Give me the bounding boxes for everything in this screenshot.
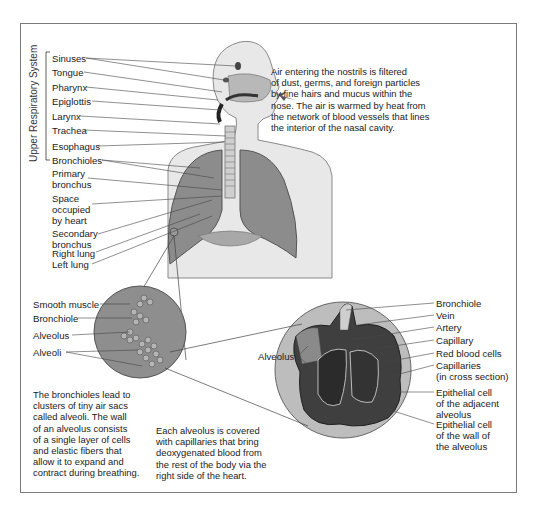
upper-respiratory-label: Upper Respiratory System: [28, 45, 39, 162]
label-alveoli: Alveoli: [33, 347, 61, 358]
label-epithelial-wall: Epithelial cell of the wall of the alveo…: [436, 419, 492, 452]
label-pharynx: Pharynx: [52, 82, 87, 93]
cluster-caption: The bronchioles lead to clusters of tiny…: [33, 389, 139, 479]
label-alveolus: Alveolus: [33, 330, 69, 341]
label-primary-bronchus: Primary bronchus: [52, 168, 91, 190]
label-artery: Artery: [436, 322, 462, 333]
label-epiglottis: Epiglottis: [52, 96, 91, 107]
label-bronchioles: Bronchioles: [52, 155, 102, 166]
label-epithelial-adjacent: Epithelial cell of the adjacent alveolus: [436, 387, 499, 420]
label-smooth-muscle: Smooth muscle: [33, 299, 99, 310]
label-tongue: Tongue: [52, 67, 83, 78]
label-esophagus: Esophagus: [52, 141, 100, 152]
label-capillary: Capillary: [436, 335, 473, 346]
label-heart-space: Space occupied by heart: [52, 193, 90, 226]
label-detail-bronchiole: Bronchiole: [436, 298, 481, 309]
alveolus-caption: Each alveolus is covered with capillarie…: [156, 425, 267, 481]
label-sinuses: Sinuses: [52, 53, 86, 64]
label-red-blood-cells: Red blood cells: [436, 348, 502, 359]
label-bronchiole: Bronchiole: [33, 313, 78, 324]
label-trachea: Trachea: [52, 125, 87, 136]
label-larynx: Larynx: [52, 111, 81, 122]
label-secondary-bronchus: Secondary bronchus: [52, 228, 98, 250]
nose-caption: Air entering the nostrils is filtered of…: [271, 66, 429, 133]
label-capillaries-cross-section: Capillaries (in cross section): [436, 360, 509, 382]
label-right-lung: Right lung: [52, 248, 95, 259]
label-left-lung: Left lung: [52, 259, 89, 270]
alveoli-cluster-circle: [94, 286, 186, 378]
label-vein: Vein: [436, 310, 455, 321]
label-detail-alveolus: Alveolus: [258, 351, 294, 362]
